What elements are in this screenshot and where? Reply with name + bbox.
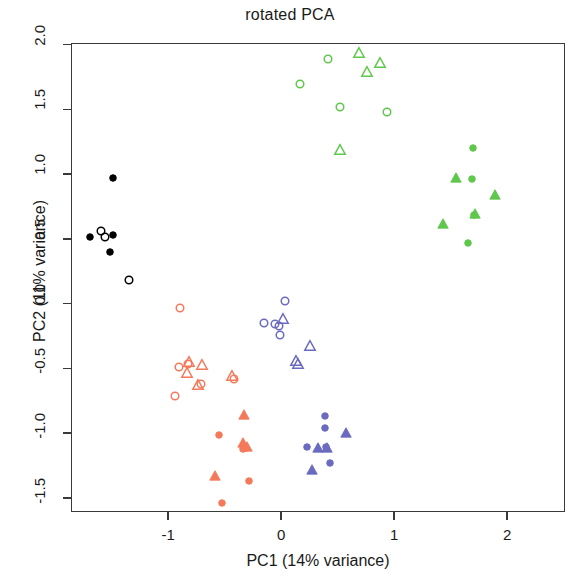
x-axis-tick — [280, 512, 282, 520]
y-axis-label: PC2 (11% variance) — [31, 141, 49, 401]
y-axis-tick — [63, 173, 71, 175]
x-axis-tick — [506, 512, 508, 520]
x-axis-tick-label: 1 — [390, 526, 398, 543]
x-axis-tick-label: 0 — [277, 526, 285, 543]
y-axis-tick — [63, 44, 71, 46]
y-axis-tick — [63, 368, 71, 370]
y-axis-tick — [63, 238, 71, 240]
x-axis-tick-label: -1 — [162, 526, 175, 543]
y-axis-tick-label: 1.5 — [31, 89, 48, 129]
y-axis-tick — [63, 497, 71, 499]
x-axis-tick-label: 2 — [503, 526, 511, 543]
y-axis-tick-label: -1.5 — [31, 478, 48, 518]
chart-title: rotated PCA — [0, 6, 580, 24]
plot-frame — [71, 43, 565, 512]
chart-page: rotated PCA -1012-1.5-1.0-0.50.00.51.01.… — [0, 0, 580, 584]
y-axis-tick — [63, 109, 71, 111]
x-axis-label: PC1 (14% variance) — [71, 552, 565, 570]
y-axis-tick — [63, 303, 71, 305]
x-axis-tick — [393, 512, 395, 520]
y-axis-tick-label: -1.0 — [31, 413, 48, 453]
y-axis-tick-label: 2.0 — [31, 25, 48, 65]
x-axis-tick — [167, 512, 169, 520]
y-axis-tick — [63, 432, 71, 434]
